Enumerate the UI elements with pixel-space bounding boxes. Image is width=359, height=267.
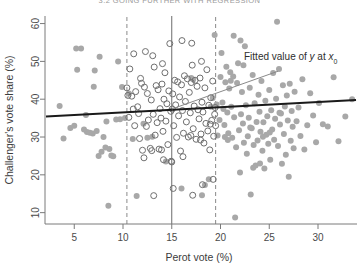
- data-point: [132, 123, 138, 129]
- data-point: [223, 64, 229, 70]
- data-point: [262, 98, 268, 104]
- x-tick-label: 5: [71, 232, 77, 243]
- data-point: [260, 119, 266, 125]
- data-point: [271, 137, 277, 143]
- data-point: [268, 107, 274, 113]
- data-point: [164, 101, 170, 107]
- y-tick-label: 40: [31, 93, 42, 105]
- fitted-value-annotation: Fitted value of y at x0: [244, 51, 338, 65]
- data-point: [110, 153, 116, 159]
- data-point: [183, 119, 189, 125]
- data-point: [189, 62, 195, 68]
- data-point: [285, 117, 291, 123]
- data-point: [196, 116, 202, 122]
- data-point: [202, 85, 208, 91]
- data-point: [238, 111, 244, 117]
- data-point: [92, 67, 98, 73]
- data-point: [142, 49, 148, 55]
- data-point: [103, 119, 109, 125]
- data-point: [177, 94, 183, 100]
- data-point: [170, 185, 176, 191]
- data-point: [254, 119, 260, 125]
- data-point: [144, 135, 150, 141]
- data-point: [290, 124, 296, 130]
- data-point: [71, 123, 77, 129]
- data-point: [115, 58, 121, 64]
- scatter-plot-canvas: 51015202530102030405060 Perot vote (%) C…: [0, 0, 359, 267]
- data-point: [284, 92, 290, 98]
- data-point: [287, 81, 293, 87]
- data-point: [251, 142, 257, 148]
- data-point: [199, 192, 205, 198]
- data-point: [297, 133, 303, 139]
- data-point: [133, 89, 139, 95]
- data-point: [250, 165, 256, 171]
- data-point: [97, 54, 103, 60]
- data-point: [289, 108, 295, 114]
- data-point: [239, 89, 245, 95]
- data-point: [296, 105, 302, 111]
- data-point: [179, 82, 185, 88]
- data-point: [148, 97, 154, 103]
- data-point: [105, 203, 111, 209]
- data-point: [257, 160, 263, 166]
- x-tick-label: 15: [166, 232, 178, 243]
- regression-scatter-figure: 3.2 GOING FURTHER WITH REGRESSION 510152…: [0, 0, 359, 267]
- data-point: [209, 117, 215, 123]
- data-point: [222, 79, 228, 85]
- data-point: [180, 154, 186, 160]
- data-point: [159, 61, 165, 67]
- data-point: [255, 137, 261, 143]
- data-point: [141, 155, 147, 161]
- data-point: [247, 125, 253, 131]
- y-tick-label: 50: [31, 55, 42, 67]
- y-axis-title: Challenger's vote share (%): [3, 55, 15, 184]
- data-point: [241, 140, 247, 146]
- data-point: [140, 147, 146, 153]
- y-tick-label: 30: [31, 131, 42, 143]
- data-point: [250, 72, 256, 78]
- data-point: [240, 120, 246, 126]
- data-point: [150, 111, 156, 117]
- data-point: [162, 70, 168, 76]
- data-point: [207, 121, 213, 127]
- data-point: [137, 136, 143, 142]
- data-point: [301, 146, 307, 152]
- data-point: [187, 110, 193, 116]
- data-point: [218, 74, 224, 80]
- data-point: [261, 165, 267, 171]
- data-point: [258, 78, 264, 84]
- data-point: [150, 53, 156, 59]
- data-point: [279, 161, 285, 167]
- data-point: [259, 148, 265, 154]
- x-tick-label: 25: [264, 232, 276, 243]
- data-point: [159, 81, 165, 87]
- data-point: [299, 76, 305, 82]
- data-point: [233, 144, 239, 150]
- data-point: [218, 50, 224, 56]
- data-point: [237, 38, 243, 44]
- data-point: [232, 215, 238, 221]
- data-point: [94, 128, 100, 134]
- data-point: [276, 66, 282, 72]
- data-point: [74, 67, 80, 73]
- data-point: [198, 131, 204, 137]
- data-point: [145, 117, 151, 123]
- data-point: [170, 91, 176, 97]
- data-point: [197, 75, 203, 81]
- data-point: [335, 138, 341, 144]
- data-point: [273, 96, 279, 102]
- data-point: [200, 109, 206, 115]
- data-point: [134, 193, 140, 199]
- data-point: [276, 110, 282, 116]
- data-point: [325, 123, 331, 129]
- data-point: [224, 109, 230, 115]
- fitted-value-annotation-text: Fitted value of y at x0: [244, 51, 338, 65]
- data-point: [190, 192, 196, 198]
- data-point: [78, 46, 84, 52]
- data-point: [231, 114, 237, 120]
- data-point: [257, 109, 263, 115]
- data-point: [267, 129, 273, 135]
- y-tick-label: 60: [31, 18, 42, 30]
- data-point: [294, 118, 300, 124]
